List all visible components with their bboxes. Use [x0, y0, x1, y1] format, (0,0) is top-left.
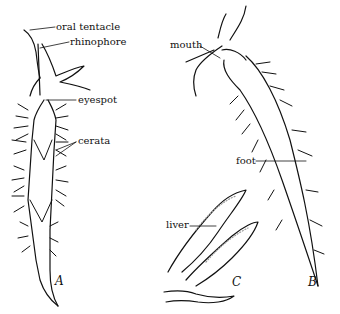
label-rhinophore: rhinophore [70, 37, 126, 47]
panel-label-b: B [308, 276, 317, 288]
label-oral-tentacle: oral tentacle [56, 22, 120, 32]
label-foot: foot [236, 156, 256, 166]
figure-a-drawing [12, 30, 90, 306]
figure-b-drawing [186, 6, 324, 286]
figure-c-drawing [164, 190, 258, 303]
rhinophore-leader [40, 42, 69, 48]
panel-label-a: A [55, 275, 64, 287]
oral-tentacle-leader [30, 27, 55, 30]
label-liver: liver [166, 220, 189, 230]
label-eyespot: eyespot [78, 95, 117, 105]
label-mouth: mouth [170, 40, 202, 50]
mouth-leader [200, 46, 220, 58]
label-cerata: cerata [78, 136, 110, 146]
panel-label-c: C [232, 276, 241, 288]
